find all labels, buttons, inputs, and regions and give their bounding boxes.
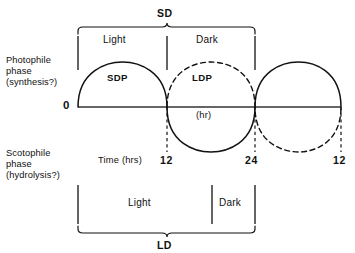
- photophile-line-3: (synthesis?): [6, 77, 57, 87]
- curve-label-sdp: SDP: [107, 72, 128, 83]
- bunning-rhythm-diagram: SD Light Dark Photophilephase(synthesis?…: [0, 0, 355, 253]
- sd-light-label: Light: [103, 34, 126, 46]
- scotophile-line-1: Scotophile: [6, 148, 50, 158]
- tick-label-24: 24: [245, 154, 258, 166]
- tick-label-12b: 12: [333, 154, 346, 166]
- photophile-line-1: Photophile: [6, 55, 51, 65]
- sd-dark-label: Dark: [196, 34, 218, 46]
- diagram-canvas: [0, 0, 355, 253]
- ld-dark-label: Dark: [219, 197, 241, 209]
- sd-bracket-label: SD: [157, 7, 172, 19]
- top-bracket-sd: [78, 23, 255, 34]
- ld-bracket-label: LD: [157, 239, 172, 251]
- curve-label-ldp: LDP: [192, 72, 212, 83]
- photophile-line-2: phase: [6, 66, 32, 76]
- ld-light-label: Light: [128, 197, 151, 209]
- time-axis-caption: Time (hrs): [98, 155, 142, 166]
- tick-label-12a: 12: [160, 154, 173, 166]
- axis-unit-label: (hr): [196, 110, 211, 121]
- photophile-phase-label: Photophilephase(synthesis?): [6, 55, 57, 88]
- scotophile-phase-label: Scotophilephase(hydrolysis?): [6, 148, 60, 181]
- scotophile-line-2: phase: [6, 159, 32, 169]
- axis-zero-label: 0: [63, 99, 69, 113]
- bottom-bracket-ld: [78, 226, 255, 237]
- scotophile-line-3: (hydrolysis?): [6, 170, 60, 180]
